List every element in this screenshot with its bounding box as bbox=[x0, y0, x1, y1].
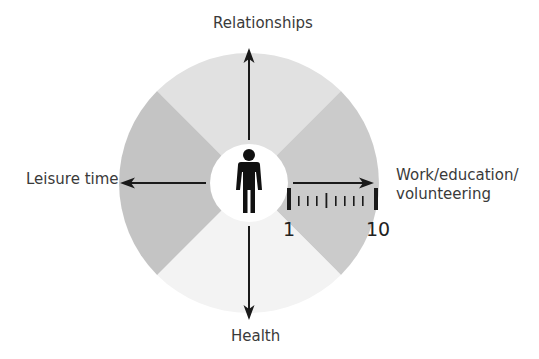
domain-label-health: Health bbox=[231, 327, 280, 346]
domain-label-leisure: Leisure time bbox=[26, 170, 119, 189]
domain-label-work: Work/education/ volunteering bbox=[396, 166, 519, 204]
domain-label-relationships: Relationships bbox=[213, 14, 313, 33]
scale-max-label: 10 bbox=[366, 218, 390, 240]
scale-min-label: 1 bbox=[283, 218, 295, 240]
domain-label-work-line1: Work/education/ bbox=[396, 166, 519, 185]
domain-label-work-line2: volunteering bbox=[396, 185, 519, 204]
